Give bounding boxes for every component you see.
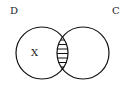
set-c-label: C: [112, 5, 120, 16]
set-d-label: D: [10, 5, 18, 16]
region-x-label: X: [31, 47, 39, 58]
intersection-hatch: [40, 31, 90, 76]
venn-diagram: D C X: [0, 0, 125, 85]
